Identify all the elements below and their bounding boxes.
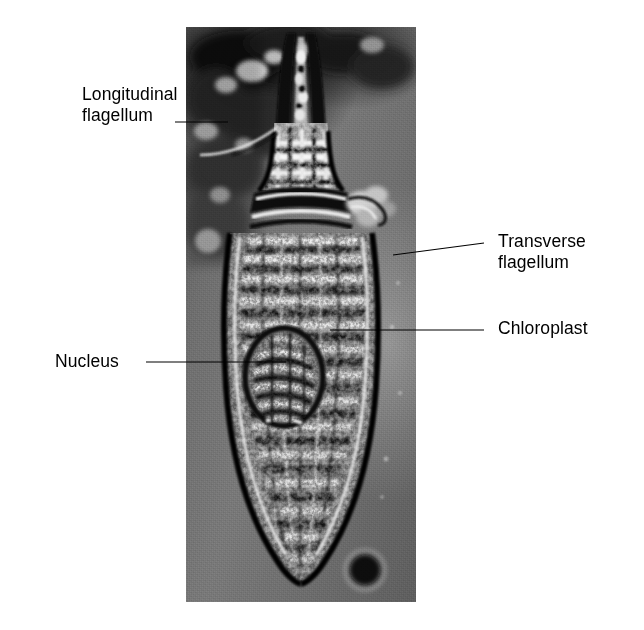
label-chloroplast: Chloroplast (498, 318, 588, 339)
label-transverse-flagellum: Transverse flagellum (498, 231, 586, 273)
label-longitudinal-flagellum: Longitudinal flagellum (82, 84, 178, 126)
figure-panel: Longitudinal flagellum Transverse flagel… (0, 0, 644, 630)
label-nucleus: Nucleus (55, 351, 119, 372)
dinoflagellate-cell-illustration (186, 27, 416, 602)
micrograph-plate (186, 27, 416, 602)
